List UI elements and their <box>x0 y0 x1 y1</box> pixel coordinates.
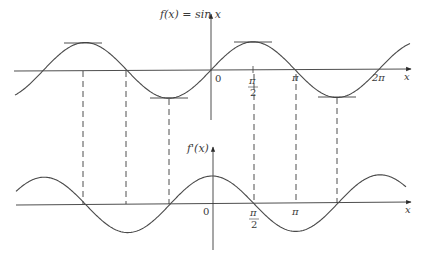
bottom-tick-label-pi: π <box>291 206 299 217</box>
top-tick-label-pi-over-2-den: 2 <box>250 87 256 98</box>
bottom-x-axis <box>16 202 411 205</box>
top-x-axis-label: x <box>404 71 410 82</box>
function-label-derivative: f'(x) <box>186 142 209 155</box>
bottom-origin-label: 0 <box>203 206 209 217</box>
dashed-guides <box>83 71 337 204</box>
bottom-tick-label-pi-over-2-num: π <box>249 207 257 218</box>
top-origin-label: 0 <box>215 73 221 84</box>
top-graph: f(x) = sin x 0 π 2 π 2π x <box>14 8 411 120</box>
top-tick-label-pi-over-2-num: π <box>248 75 256 86</box>
bottom-graph: f'(x) 0 π 2 π x <box>16 142 411 250</box>
top-x-axis <box>14 69 411 71</box>
top-tick-label-pi: π <box>291 72 299 83</box>
top-tick-label-2pi: 2π <box>371 72 385 83</box>
bottom-tick-label-pi-over-2-den: 2 <box>251 219 257 230</box>
function-label-sin: f(x) = sin x <box>159 8 222 21</box>
derivative-diagram: f(x) = sin x 0 π 2 π 2π x f'(x) 0 π 2 π … <box>0 0 422 259</box>
bottom-x-axis-label: x <box>405 204 411 215</box>
